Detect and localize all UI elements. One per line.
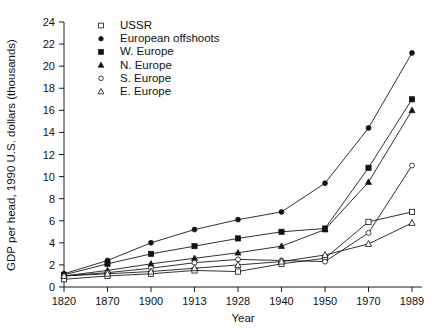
- x-axis: 182018701900191319281940195019701989: [52, 287, 424, 307]
- series-polyline: [64, 99, 412, 275]
- y-tick-label: 12: [43, 149, 55, 161]
- legend-item-s-europe[interactable]: S. Europe: [99, 72, 171, 84]
- series-european-offshoots: [62, 50, 415, 276]
- legend-label: E. Europe: [120, 85, 171, 97]
- data-point: [409, 220, 415, 226]
- y-tick-label: 18: [43, 82, 55, 94]
- data-point: [105, 261, 110, 266]
- data-point: [366, 165, 371, 170]
- y-tick-label: 20: [43, 60, 55, 72]
- y-tick-label: 22: [43, 38, 55, 50]
- x-tick-label: 1820: [52, 295, 76, 307]
- y-tick-label: 4: [49, 237, 55, 249]
- legend-marker-filled-square: [99, 50, 104, 55]
- data-point: [366, 179, 372, 185]
- data-point: [235, 269, 240, 274]
- legend-marker-open-circle: [99, 76, 104, 81]
- y-tick-label: 6: [49, 215, 55, 227]
- y-axis: 024681012141618202224: [43, 16, 64, 293]
- y-tick-label: 16: [43, 104, 55, 116]
- legend-label: USSR: [120, 19, 152, 31]
- data-point: [366, 126, 371, 131]
- legend-item-e-europe[interactable]: E. Europe: [98, 85, 171, 97]
- legend-item-w-europe[interactable]: W. Europe: [99, 45, 174, 57]
- y-tick-label: 24: [43, 16, 55, 28]
- legend-item-n-europe[interactable]: N. Europe: [98, 59, 172, 71]
- x-tick-label: 1950: [313, 295, 337, 307]
- data-point: [410, 50, 415, 55]
- legend-label: W. Europe: [120, 45, 174, 57]
- legend-marker-filled-triangle: [98, 62, 104, 67]
- data-point: [409, 209, 414, 214]
- data-point: [279, 209, 284, 214]
- y-axis-title: GDP per head, 1990 U.S. dollars (thousan…: [5, 39, 17, 271]
- x-tick-label: 1928: [226, 295, 250, 307]
- legend-marker-open-square: [99, 23, 104, 28]
- y-tick-label: 2: [49, 259, 55, 271]
- x-tick-label: 1989: [400, 295, 424, 307]
- data-point: [323, 259, 328, 264]
- data-point: [149, 240, 154, 245]
- data-point: [235, 236, 240, 241]
- x-tick-label: 1940: [269, 295, 293, 307]
- data-point: [192, 244, 197, 249]
- series-n-europe: [61, 107, 415, 278]
- x-tick-label: 1870: [95, 295, 119, 307]
- chart-figure: 024681012141618202224 182018701900191319…: [0, 0, 447, 328]
- legend-item-ussr[interactable]: USSR: [99, 19, 152, 31]
- data-point: [236, 217, 241, 222]
- data-point: [365, 241, 371, 247]
- line-chart-canvas: 024681012141618202224 182018701900191319…: [0, 0, 447, 328]
- legend-label: European offshoots: [120, 32, 220, 44]
- y-tick-label: 8: [49, 193, 55, 205]
- legend-item-european-offshoots[interactable]: European offshoots: [99, 32, 220, 44]
- data-point: [279, 229, 284, 234]
- legend-label: S. Europe: [120, 72, 171, 84]
- chart-legend: USSREuropean offshootsW. EuropeN. Europe…: [98, 19, 220, 97]
- data-point: [148, 251, 153, 256]
- x-tick-label: 1900: [139, 295, 163, 307]
- data-point: [192, 227, 197, 232]
- data-point: [366, 230, 371, 235]
- data-point: [366, 219, 371, 224]
- data-point: [410, 163, 415, 168]
- legend-marker-open-triangle: [98, 88, 104, 93]
- data-point: [323, 181, 328, 186]
- x-tick-label: 1970: [356, 295, 380, 307]
- x-tick-label: 1913: [182, 295, 206, 307]
- series-layer: [61, 50, 415, 281]
- legend-marker-filled-circle: [99, 36, 104, 41]
- x-axis-title: Year: [231, 312, 254, 324]
- y-tick-label: 14: [43, 126, 55, 138]
- data-point: [409, 97, 414, 102]
- y-tick-label: 10: [43, 171, 55, 183]
- y-tick-label: 0: [49, 281, 55, 293]
- legend-label: N. Europe: [120, 59, 172, 71]
- data-point: [409, 107, 415, 113]
